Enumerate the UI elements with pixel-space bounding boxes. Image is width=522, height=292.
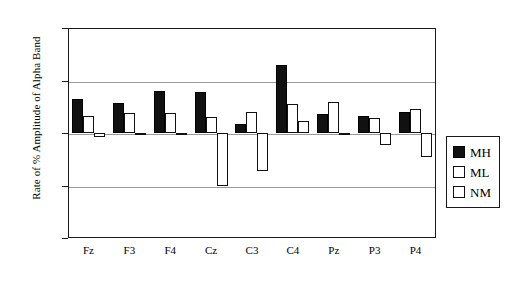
bar-p3-ml [369, 118, 380, 133]
bar-c3-nm [257, 133, 268, 171]
bar-p4-mh [399, 112, 410, 133]
bar-group [191, 28, 232, 238]
x-tick-label-p4: P4 [394, 244, 438, 256]
legend-swatch-ml-icon [453, 166, 465, 178]
y-tick-mark [62, 238, 68, 239]
bar-c4-nm [298, 121, 309, 133]
x-tick-label-f4: F4 [148, 244, 192, 256]
bars-layer [68, 28, 436, 238]
bar-group [395, 28, 436, 238]
bar-c4-mh [276, 65, 287, 133]
legend-item-mh: MH [453, 142, 491, 162]
bar-f4-ml [165, 113, 176, 133]
bar-pz-ml [328, 102, 339, 134]
bar-f3-mh [113, 103, 124, 133]
legend-item-nm: NM [453, 182, 491, 202]
x-tick-label-f3: F3 [107, 244, 151, 256]
bar-c3-mh [235, 124, 246, 133]
bar-f4-mh [154, 91, 165, 133]
bar-group [313, 28, 354, 238]
bar-cz-mh [195, 92, 206, 133]
bar-p4-ml [410, 109, 421, 133]
bar-group [68, 28, 109, 238]
bar-c4-ml [287, 104, 298, 133]
bar-fz-mh [72, 99, 83, 133]
bar-p3-mh [358, 116, 369, 133]
legend-swatch-nm-icon [453, 186, 465, 198]
legend-item-ml: ML [453, 162, 491, 182]
bar-p4-nm [421, 133, 432, 157]
bar-f3-ml [124, 113, 135, 133]
x-axis-labels: FzF3F4CzC3C4PzP3P4 [68, 244, 436, 264]
x-tick-label-pz: Pz [312, 244, 356, 256]
x-tick-label-p3: P3 [353, 244, 397, 256]
legend-label: MH [470, 146, 491, 159]
bar-cz-ml [206, 117, 217, 133]
y-axis-title: Rate of % Amplitude of Alpha Band [30, 8, 42, 228]
legend-label: ML [470, 166, 490, 179]
bar-c3-ml [246, 112, 257, 133]
bar-p3-nm [380, 133, 391, 145]
legend-swatch-mh-icon [453, 146, 465, 158]
bar-f4-nm [176, 133, 187, 135]
x-tick-label-c4: C4 [271, 244, 315, 256]
bar-pz-mh [317, 114, 328, 133]
bar-group [232, 28, 273, 238]
x-tick-label-fz: Fz [66, 244, 110, 256]
x-tick-label-cz: Cz [189, 244, 233, 256]
x-tick-label-c3: C3 [230, 244, 274, 256]
bar-group [150, 28, 191, 238]
bar-pz-nm [339, 133, 350, 135]
bar-f3-nm [135, 133, 146, 135]
bar-fz-nm [94, 133, 105, 137]
chart-legend: MHMLNM [446, 136, 500, 208]
bar-group [109, 28, 150, 238]
bar-cz-nm [217, 133, 228, 186]
bar-group [354, 28, 395, 238]
bar-group [272, 28, 313, 238]
alpha-band-bar-chart: Rate of % Amplitude of Alpha Band 1.21.1… [0, 0, 522, 292]
bar-fz-ml [83, 116, 94, 133]
legend-label: NM [470, 186, 491, 199]
